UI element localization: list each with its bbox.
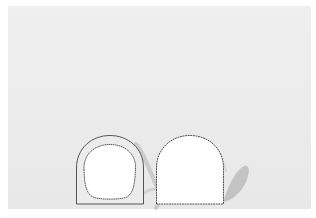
right-arch-shape: [157, 136, 224, 205]
left-arch-inner-opening: [84, 145, 136, 200]
right-arch: [157, 136, 224, 205]
arch-diagram: [0, 0, 316, 218]
left-arch: [77, 136, 144, 205]
